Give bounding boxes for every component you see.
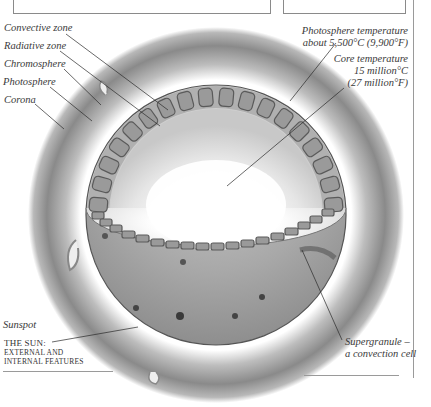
right-rule xyxy=(304,375,399,376)
photosphere-temp-line-2: about 5,500°C (9,900°F) xyxy=(302,37,408,49)
photosphere-temp-line-1: Photosphere temperature xyxy=(302,25,408,37)
supergranule-line-2: a convection cell xyxy=(345,348,416,360)
label-corona: Corona xyxy=(4,94,36,106)
label-core-temperature: Core temperature 15 million°C (27 millio… xyxy=(334,53,408,89)
label-photosphere-temperature: Photosphere temperature about 5,500°C (9… xyxy=(302,25,408,49)
label-convective-zone: Convective zone xyxy=(4,22,73,34)
label-supergranule: Supergranule – a convection cell xyxy=(345,336,416,360)
caption-line-3: internal features xyxy=(4,357,84,366)
figure-caption: The sun: external and internal features xyxy=(4,339,84,366)
core-temp-line-1: Core temperature xyxy=(334,53,408,65)
sunspot xyxy=(176,312,184,320)
label-chromosphere: Chromosphere xyxy=(4,58,66,70)
caption-line-1: The sun: xyxy=(4,339,84,348)
label-sunspot: Sunspot xyxy=(3,319,36,331)
label-radiative-zone: Radiative zone xyxy=(4,40,66,52)
caption-rule xyxy=(3,371,113,372)
caption-line-2: external and xyxy=(4,348,84,357)
core-temp-line-3: (27 million°F) xyxy=(334,77,408,89)
label-photosphere: Photosphere xyxy=(3,76,56,88)
supergranule-line-1: Supergranule – xyxy=(345,336,416,348)
core-temp-line-2: 15 million°C xyxy=(334,65,408,77)
